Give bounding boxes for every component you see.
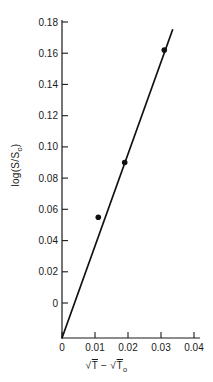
x-tick-label: 0.02 (118, 342, 138, 353)
y-tick-label: 0.10 (39, 141, 59, 152)
y-tick-label: 0.06 (39, 204, 59, 215)
x-tick-label: 0.03 (151, 342, 171, 353)
y-tick-label: 0.02 (39, 266, 59, 277)
x-tick-label: 0.01 (85, 342, 105, 353)
chart-figure: 0.18 0.16 0.14 0.12 0.10 0.08 0.06 0.04 … (0, 0, 213, 382)
data-point (96, 214, 102, 220)
data-point (122, 160, 128, 166)
y-tick-label: 0.04 (39, 235, 59, 246)
y-tick-label: 0.08 (39, 173, 59, 184)
y-tick-label: 0.18 (39, 17, 59, 28)
y-tick-label: 0.16 (39, 48, 59, 59)
y-tick-label: 0 (52, 298, 58, 309)
x-tick-label: 0 (59, 342, 65, 353)
x-tick-label: 0.04 (184, 342, 204, 353)
plot-background (0, 0, 213, 382)
data-point (162, 47, 168, 53)
y-tick-label: 0.12 (39, 110, 59, 121)
y-tick-label: 0.14 (39, 79, 59, 90)
scatter-plot-svg: 0.18 0.16 0.14 0.12 0.10 0.08 0.06 0.04 … (0, 0, 213, 382)
